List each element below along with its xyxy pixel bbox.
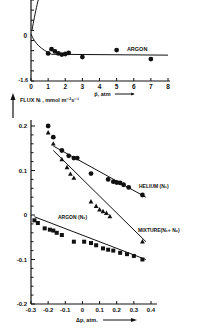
argon-n2-series-label: ARGON (N₂): [58, 214, 87, 220]
y-tick-label: 0.2: [19, 123, 28, 129]
square-marker: [125, 252, 129, 256]
square-marker: [55, 231, 59, 235]
fit-line: [53, 150, 146, 241]
x-tick-label: 2: [63, 83, 67, 90]
square-marker: [101, 246, 105, 250]
circle-marker: [148, 57, 153, 62]
arrow-head-icon: [131, 93, 134, 96]
circle-marker: [66, 153, 71, 158]
x-tick-label: 4: [98, 83, 102, 90]
triangle-marker: [94, 204, 99, 208]
x-tick-label: 6: [132, 83, 136, 90]
circle-marker: [89, 171, 94, 176]
x-tick-label: 0: [81, 307, 85, 313]
circle-marker: [66, 50, 71, 55]
y-tick-label: 0.1: [19, 168, 28, 174]
square-marker: [94, 243, 98, 247]
x-tick-label: 5: [115, 83, 119, 90]
mixture-series-label: MIXTURE(N₁+ N₂): [138, 227, 180, 233]
bottom-chart: FLUX Nᵢ , mmol m⁻²s⁻¹0.20.10-0.1-0.2-0.3…: [11, 93, 180, 323]
circle-marker: [46, 51, 51, 56]
square-marker: [132, 254, 136, 258]
x-tick-label: 0.1: [95, 307, 104, 313]
y-tick-label: -0.1: [17, 257, 28, 263]
y-tick-label: 0: [23, 32, 27, 39]
circle-marker: [80, 55, 85, 60]
rising-curve: [32, 0, 43, 30]
square-marker: [72, 240, 76, 244]
square-marker: [36, 221, 40, 225]
circle-marker: [51, 135, 56, 140]
x-tick-label: -0.2: [43, 307, 54, 313]
x-axis-label: Δp, atm.: [76, 317, 98, 323]
arrow-up-icon: [11, 93, 16, 100]
square-marker: [48, 228, 52, 232]
square-marker: [60, 233, 64, 237]
square-marker: [43, 226, 47, 230]
circle-marker: [121, 182, 126, 187]
fit-line: [53, 146, 146, 197]
top-chart: 0123456780-1.6p̄, atmARGON: [19, 0, 171, 97]
square-marker: [82, 240, 86, 244]
triangle-marker: [51, 141, 56, 145]
fit-line: [34, 217, 145, 260]
circle-marker: [126, 185, 131, 190]
circle-marker: [114, 48, 119, 53]
triangle-marker: [46, 130, 51, 134]
x-tick-label: 0.2: [113, 307, 122, 313]
arrow-right-icon: [131, 318, 137, 322]
x-axis-label: p̄, atm: [94, 91, 110, 97]
circle-marker: [46, 124, 51, 129]
x-tick-label: 1: [46, 83, 50, 90]
y-axis-label: FLUX Nᵢ , mmol m⁻²s⁻¹: [20, 97, 79, 103]
x-tick-label: -0.3: [26, 307, 37, 313]
y-tick-label: -1.6: [19, 77, 28, 83]
circle-marker: [140, 193, 145, 198]
square-marker: [106, 248, 110, 252]
square-marker: [118, 251, 122, 255]
circle-marker: [75, 156, 80, 161]
argon-series-label: ARGON: [127, 46, 147, 52]
x-tick-label: 0.4: [147, 307, 156, 313]
argon-fit-curve: [31, 34, 168, 55]
y-tick-label: 0: [24, 212, 28, 218]
x-tick-label: 7: [149, 83, 153, 90]
figure: 0123456780-1.6p̄, atmARGON FLUX Nᵢ , mmo…: [0, 0, 200, 336]
triangle-marker: [89, 199, 94, 203]
triangle-marker: [71, 175, 76, 179]
x-tick-label: 8: [166, 83, 170, 90]
square-marker: [111, 249, 115, 253]
helium-series-label: HELIUM (N₁): [139, 183, 169, 189]
x-tick-label: 3: [81, 83, 85, 90]
x-tick-label: -0.1: [60, 307, 71, 313]
triangle-marker: [68, 171, 73, 175]
circle-marker: [106, 177, 111, 182]
x-tick-label: 0: [29, 83, 33, 90]
square-marker: [32, 218, 36, 222]
square-marker: [89, 241, 93, 245]
square-marker: [51, 229, 55, 233]
x-tick-label: 0.3: [130, 307, 139, 313]
circle-marker: [59, 148, 64, 153]
square-marker: [140, 258, 144, 262]
